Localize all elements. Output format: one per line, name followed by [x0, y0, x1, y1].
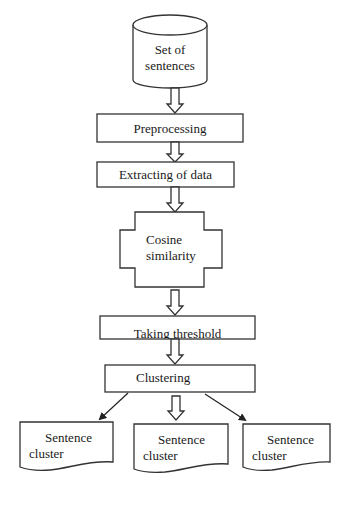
label-sentence-cluster-2-line1: Sentence	[158, 432, 205, 448]
label-cosine-similarity-line1: Cosine	[146, 232, 182, 248]
label-sentence-cluster-1-line2: cluster	[29, 446, 64, 462]
label-clustering: Clustering	[136, 370, 190, 386]
arrow-to-threshold	[167, 290, 183, 315]
arrow-to-sentence-cluster-3	[205, 394, 245, 420]
arrow-to-preprocessing	[167, 88, 183, 113]
label-sentence-cluster-3-line1: Sentence	[267, 432, 314, 448]
label-extracting-of-data: Extracting of data	[97, 167, 234, 183]
label-taking-threshold: Taking threshold	[100, 326, 255, 339]
arrow-to-extracting	[167, 142, 183, 162]
label-set-of-sentences-line2: sentences	[133, 58, 207, 74]
arrow-to-sentence-cluster-2	[168, 396, 184, 420]
label-preprocessing: Preprocessing	[97, 121, 243, 137]
arrow-to-sentence-cluster-1	[100, 393, 128, 419]
label-sentence-cluster-3-line2: cluster	[252, 448, 287, 464]
arrow-to-clustering	[167, 339, 183, 364]
label-sentence-cluster-2-line2: cluster	[143, 448, 178, 464]
arrow-to-cosine	[167, 187, 183, 212]
label-set-of-sentences-line1: Set of	[133, 42, 207, 58]
label-sentence-cluster-1-line1: Sentence	[45, 430, 92, 446]
label-cosine-similarity-line2: similarity	[146, 248, 196, 264]
